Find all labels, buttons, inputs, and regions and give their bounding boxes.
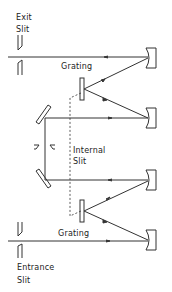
grating-top-label: Grating xyxy=(61,62,92,71)
internal-slit-label-2: Slit xyxy=(73,157,86,166)
plane-mirror-lower xyxy=(36,169,51,188)
grating-top xyxy=(80,78,84,100)
entrance-slit-label-2: Slit xyxy=(17,276,30,285)
plane-mirror-upper xyxy=(36,105,51,124)
exit-slit xyxy=(18,35,22,75)
entrance-slit xyxy=(18,222,22,258)
exit-slit-label-2: Slit xyxy=(16,25,29,34)
entrance-slit-label-1: Entrance xyxy=(17,263,54,272)
grating-bottom-label: Grating xyxy=(58,229,89,238)
exit-slit-label-1: Exit xyxy=(16,13,32,22)
internal-slit-label-1: Internal xyxy=(73,146,105,155)
